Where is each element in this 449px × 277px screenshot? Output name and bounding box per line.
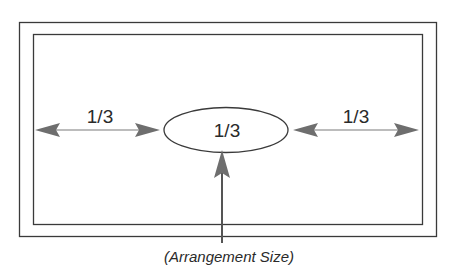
right-fraction-label: 1/3 — [343, 106, 369, 128]
arrangement-size-caption: (Arrangement Size) — [164, 248, 294, 265]
up-arrow-icon — [214, 150, 230, 243]
center-fraction-label: 1/3 — [214, 120, 240, 142]
left-fraction-label: 1/3 — [87, 106, 113, 128]
